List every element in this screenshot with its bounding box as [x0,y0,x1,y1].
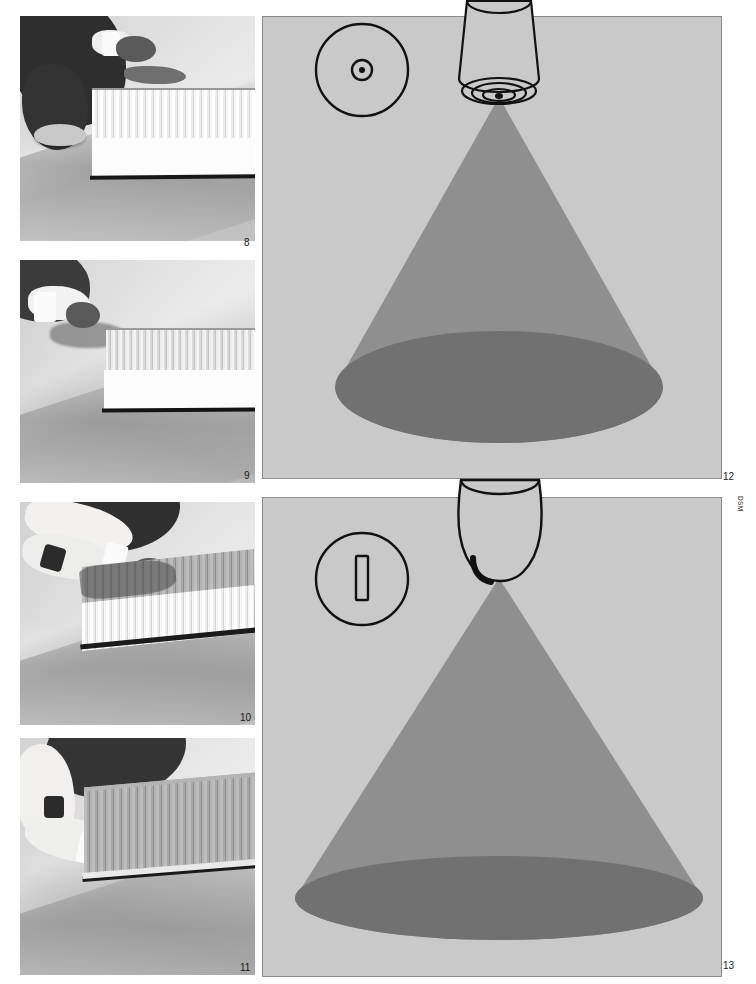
photo-figure-10 [20,502,255,725]
figure-number-11: 11 [240,963,250,973]
figure-number-8: 8 [244,238,250,248]
figure-shoe [34,124,86,146]
diagram-figure-13 [262,497,722,977]
panel-flat-face-9 [104,370,255,410]
figure-watch-11 [44,796,64,818]
diagram-figure-12 [262,16,722,479]
figure-hand [116,36,156,62]
panel-top-rail [92,88,255,90]
photo-figure-8 [20,16,255,241]
photo-figure-11 [20,738,255,975]
full-cone-spray-svg [263,17,721,478]
figure-cuff-9 [34,292,56,322]
inset-orifice-dot-12 [359,67,365,73]
spray-footprint-circle [335,331,663,443]
nozzle-orifice-round [495,93,503,99]
figure-number-12: 12 [723,472,734,482]
corrugated-panel-9 [106,328,255,374]
photo-credit: DSM [737,496,744,511]
figure-number-13: 13 [723,961,734,971]
figure-number-10: 10 [240,713,251,723]
panel-corrugation-9 [106,328,255,374]
panel-top-rail-9 [106,328,255,330]
spray-footprint-ellipse [295,856,703,940]
photo-figure-9 [20,260,255,483]
figure-number-9: 9 [244,471,250,481]
panel-flat-face-8 [92,138,255,176]
corrugated-panel-11 [84,772,255,873]
page-root: 8 9 [0,0,756,984]
figure-tool [124,66,186,84]
inset-slot-orifice-13 [356,556,368,600]
flat-fan-spray-svg [263,498,721,976]
